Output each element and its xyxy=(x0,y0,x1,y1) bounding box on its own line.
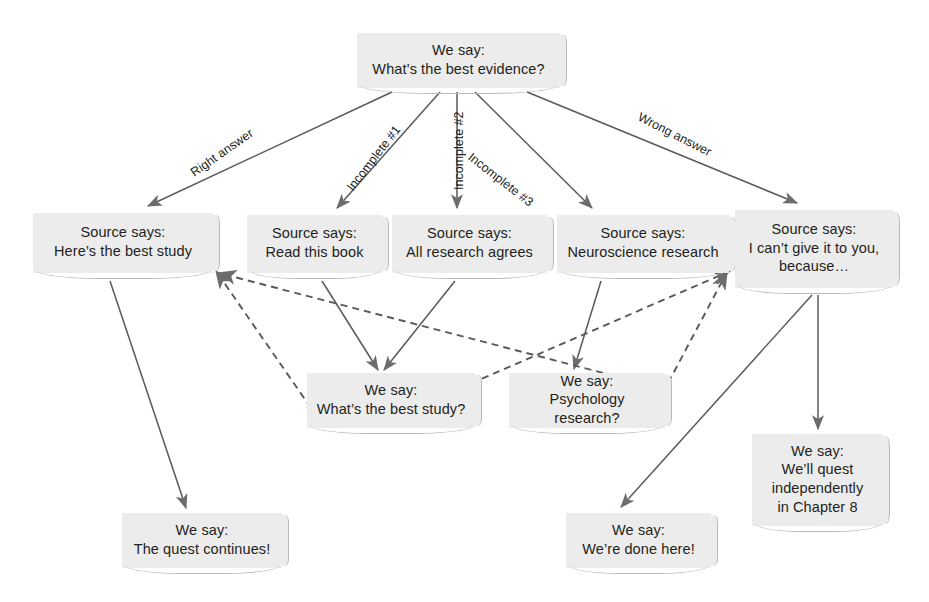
edge-e_best_continue xyxy=(110,281,186,508)
note-text-ws_study: We say: What’s the best study? xyxy=(316,381,466,418)
edge-e_book_study xyxy=(322,281,378,370)
note-src_best[interactable]: Source says: Here’s the best study xyxy=(33,213,213,273)
edge-e_root_cant xyxy=(527,92,797,203)
note-ws_study[interactable]: We say: What’s the best study? xyxy=(307,373,475,428)
note-ws_psych[interactable]: We say: Psychology research? xyxy=(509,373,665,428)
note-text-ws_done: We say: We’re done here! xyxy=(575,521,702,558)
note-text-src_all: Source says: All research agrees xyxy=(401,224,538,261)
note-ws_done[interactable]: We say: We’re done here! xyxy=(566,513,711,568)
note-text-src_cant: Source says: I can’t give it to you, bec… xyxy=(744,220,884,276)
note-root[interactable]: We say: What’s the best evidence? xyxy=(357,33,560,88)
edge-e_neuro_psych xyxy=(574,281,601,369)
note-text-src_best: Source says: Here’s the best study xyxy=(42,223,204,260)
note-text-ws_chapter: We say: We’ll quest independently in Cha… xyxy=(761,442,874,516)
note-text-src_book: Source says: Read this book xyxy=(256,224,373,261)
note-text-src_neuro: Source says: Neuroscience research xyxy=(566,224,720,261)
edge-label-lbl_inc2: Incomplete #2 xyxy=(452,111,466,190)
note-src_cant[interactable]: Source says: I can’t give it to you, bec… xyxy=(735,210,893,288)
note-src_all[interactable]: Source says: All research agrees xyxy=(392,215,547,273)
note-text-root: We say: What’s the best evidence? xyxy=(366,41,551,78)
note-text-ws_continue: We say: The quest continues! xyxy=(131,521,273,558)
diagram-canvas: We say: What’s the best evidence?Source … xyxy=(0,0,929,602)
note-src_neuro[interactable]: Source says: Neuroscience research xyxy=(557,215,729,273)
note-src_book[interactable]: Source says: Read this book xyxy=(247,215,382,273)
note-text-ws_psych: We say: Psychology research? xyxy=(518,372,656,428)
edge-e_psych_cant xyxy=(657,272,727,404)
edge-e_root_neuro xyxy=(475,92,592,208)
edge-e_study_best xyxy=(216,271,311,408)
note-ws_chapter[interactable]: We say: We’ll quest independently in Cha… xyxy=(752,434,883,526)
edge-e_all_study xyxy=(384,281,455,370)
note-ws_continue[interactable]: We say: The quest continues! xyxy=(122,513,282,568)
